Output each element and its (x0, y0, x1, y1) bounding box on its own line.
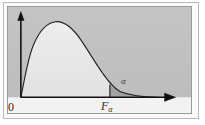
figure-root: α 0 Fα (0, 0, 205, 125)
axis-label-band (8, 97, 191, 113)
alpha-area-label: α (121, 77, 126, 86)
critical-value-label: Fα (101, 100, 113, 114)
origin-label: 0 (8, 101, 14, 113)
critical-value-subscript: α (108, 105, 112, 114)
distribution-plot-svg (8, 7, 191, 113)
plot-panel: α (7, 6, 192, 114)
